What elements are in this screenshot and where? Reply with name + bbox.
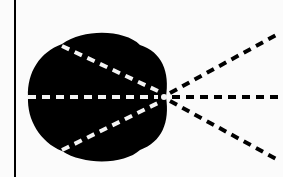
focal-point [161, 94, 167, 100]
ray-diagram [0, 0, 283, 177]
outer-black-dashed-rays [170, 34, 283, 160]
outer-ray-3 [170, 101, 278, 160]
outer-ray-1 [170, 34, 278, 93]
